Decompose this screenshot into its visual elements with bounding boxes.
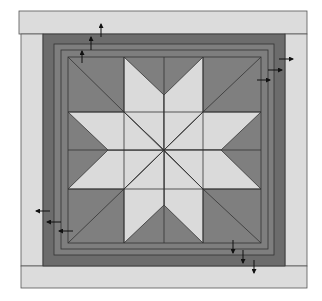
border-left <box>21 34 43 266</box>
border-right <box>285 34 307 266</box>
border-top <box>19 11 307 34</box>
border-bottom <box>21 266 307 288</box>
quilt-diagram <box>0 0 322 301</box>
